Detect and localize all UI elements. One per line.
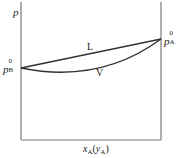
p-b-sub: B xyxy=(9,67,14,74)
p-a-sub: A xyxy=(170,39,175,46)
y-axis-label: p xyxy=(13,7,19,18)
p-b-zero-label: p0B xyxy=(3,63,15,75)
x-axis-paren-close: ) xyxy=(105,143,108,154)
phase-diagram: p p0B p0A L V xA(yA) xyxy=(0,0,182,158)
p-a-sup: 0 xyxy=(170,30,174,37)
curve-label-V: V xyxy=(96,68,103,78)
x-axis-paren-sub: A xyxy=(100,148,105,156)
p-b-sup: 0 xyxy=(9,58,13,65)
x-axis-label: xA(yA) xyxy=(83,144,109,154)
curve-label-L: L xyxy=(87,42,93,52)
diagram-canvas xyxy=(0,0,182,158)
x-axis-var-sub: A xyxy=(87,148,92,156)
p-a-zero-label: p0A xyxy=(164,35,176,47)
